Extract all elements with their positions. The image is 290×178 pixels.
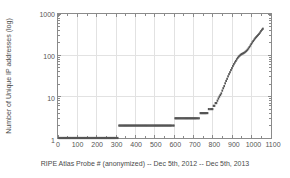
x-tick-label: 400 (130, 141, 142, 148)
x-tick-label: 700 (189, 141, 201, 148)
x-tick-label: 500 (150, 141, 162, 148)
x-tick-label: 900 (228, 141, 240, 148)
x-tick-label: 0 (56, 141, 60, 148)
y-tick-label: 100 (43, 53, 55, 60)
x-tick-label: 800 (209, 141, 221, 148)
y-tick-label: 1 (51, 137, 55, 144)
x-axis-title: RIPE Atlas Probe # (anonymized) -- Dec 5… (0, 159, 290, 168)
y-tick-label: 10 (47, 95, 55, 102)
x-tick-label: 1000 (246, 141, 262, 148)
y-tick-label: 1000 (39, 11, 55, 18)
x-tick-label: 600 (169, 141, 181, 148)
y-axis-title: Number of Unique IP addresses (log) (3, 13, 14, 139)
x-tick-label: 1100 (265, 141, 280, 148)
x-tick-label: 300 (111, 141, 123, 148)
data-series-markers (58, 14, 271, 138)
chart-figure: Number of Unique IP addresses (log) 1101… (0, 0, 290, 178)
x-tick-label: 200 (91, 141, 103, 148)
x-tick-label: 100 (72, 141, 84, 148)
plot-area: 1101001000 01002003004005006007008009001… (57, 13, 272, 139)
